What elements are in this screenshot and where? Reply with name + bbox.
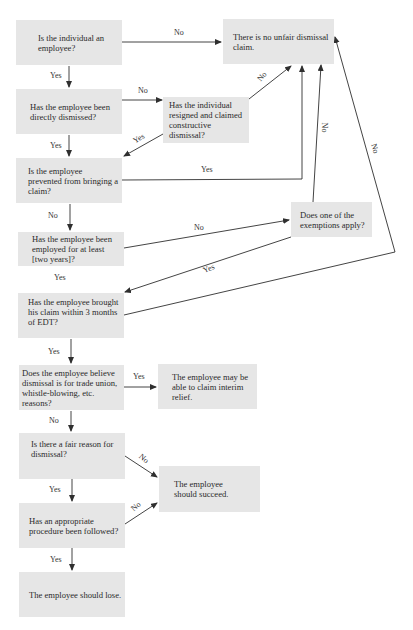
node-text: Is there a fair reason for dismissal? <box>31 439 121 459</box>
node-is-employee: Is the individual an employee? <box>16 20 122 65</box>
node-text: The employee may be able to claim interi… <box>172 372 253 402</box>
node-trade-union: Does the employee believe dismissal is f… <box>19 365 124 410</box>
node-prevented-claim: Is the employee prevented from bringing … <box>16 158 122 203</box>
label-employee-yes: Yes <box>50 71 62 80</box>
node-should-lose: The employee should lose. <box>19 572 125 617</box>
node-no-claim: There is no unfair dismissal claim. <box>223 19 334 64</box>
label-exemptions-no: No <box>320 123 329 133</box>
arrow-two-years-no <box>124 220 289 248</box>
node-three-months: Has the employee brought his claim withi… <box>18 293 124 338</box>
label-employee-no: No <box>174 28 184 37</box>
arrow-resigned-no <box>249 66 291 99</box>
label-prevented-no: No <box>48 211 58 220</box>
label-two-years-yes: Yes <box>54 273 66 282</box>
node-text: Has the employee been employed for at le… <box>32 234 120 264</box>
node-text: Is the individual an employee? <box>38 33 116 53</box>
node-text: Is the employee prevented from bringing … <box>28 166 118 196</box>
arrow-exemptions-no <box>313 65 321 202</box>
node-text: Does the employee believe dismissal is f… <box>22 368 122 408</box>
node-directly-dismissed: Has the employee been directly dismissed… <box>16 89 122 134</box>
node-text: There is no unfair dismissal claim. <box>233 32 330 52</box>
node-exemptions: Does one of the exemptions apply? <box>291 202 372 237</box>
label-prevented-yes: Yes <box>201 165 213 174</box>
label-trade-union-no: No <box>49 416 59 425</box>
label-two-years-no: No <box>194 223 204 232</box>
node-should-succeed: The employee should succeed. <box>159 466 260 512</box>
label-trade-union-yes: Yes <box>133 372 145 381</box>
label-fair-reason-yes: Yes <box>49 485 61 494</box>
node-text: Has an appropriate procedure been follow… <box>29 516 123 536</box>
node-text: Has the individual resigned and claimed … <box>169 100 246 140</box>
node-two-years: Has the employee been employed for at le… <box>18 232 124 266</box>
node-text: Has the employee been directly dismissed… <box>30 102 116 122</box>
label-dismissed-no: No <box>138 86 148 95</box>
node-interim-relief: The employee may be able to claim interi… <box>158 364 257 409</box>
label-dismissed-yes: Yes <box>50 141 62 150</box>
node-resigned-constructive: Has the individual resigned and claimed … <box>163 97 249 143</box>
node-fair-reason: Is there a fair reason for dismissal? <box>19 433 125 479</box>
label-three-months-yes: Yes <box>48 347 60 356</box>
node-text: Does one of the exemptions apply? <box>300 210 369 230</box>
node-appropriate-procedure: Has an appropriate procedure been follow… <box>19 503 125 548</box>
node-text: The employee should succeed. <box>174 479 240 499</box>
label-procedure-yes: Yes <box>50 555 62 564</box>
node-text: Has the employee brought his claim withi… <box>28 297 120 327</box>
node-text: The employee should lose. <box>29 590 121 600</box>
